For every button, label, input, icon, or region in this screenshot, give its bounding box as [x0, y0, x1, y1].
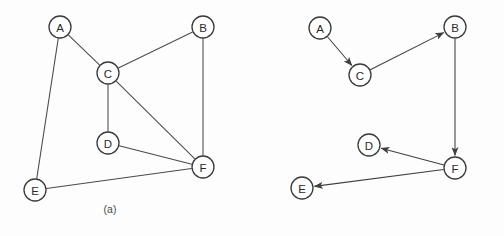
node-label-E: E	[298, 183, 306, 195]
caption-a: (a)	[90, 203, 130, 215]
graph-edge-A-C	[68, 35, 99, 65]
graph-node-C: C	[349, 64, 371, 86]
graph-edge-D-F	[119, 146, 192, 164]
node-label-D: D	[365, 140, 373, 152]
graph-node-D: D	[97, 132, 119, 154]
graph-node-D: D	[358, 134, 380, 156]
node-label-B: B	[451, 22, 459, 34]
graph-node-F: F	[444, 157, 466, 179]
graph-panel-a: ABCDEF (a)	[0, 0, 252, 236]
graph-node-E: E	[291, 177, 313, 199]
node-label-F: F	[451, 163, 458, 175]
graph-node-B: B	[444, 16, 466, 38]
graph-b-node-group: ABCDEF	[291, 16, 466, 199]
graph-node-A: A	[309, 17, 331, 39]
graph-arrow-F-E	[314, 169, 443, 186]
graph-arrow-C-B	[370, 33, 444, 70]
figure-root: ABCDEF (a) ABCDEF (b)	[0, 0, 504, 236]
node-label-B: B	[199, 22, 207, 34]
node-label-D: D	[104, 138, 112, 150]
graph-arrow-F-D	[381, 148, 444, 165]
node-label-C: C	[104, 68, 112, 80]
graph-a-edge-group	[37, 32, 203, 188]
graph-edge-A-E	[37, 38, 59, 178]
graph-edge-C-B	[118, 32, 192, 68]
graph-node-A: A	[49, 16, 71, 38]
graph-node-B: B	[192, 16, 214, 38]
node-label-E: E	[31, 185, 39, 197]
graph-a-node-group: ABCDEF	[24, 16, 214, 201]
node-label-C: C	[356, 70, 364, 82]
graph-arrow-A-C	[327, 37, 351, 66]
graph-b-canvas: ABCDEF	[252, 0, 504, 236]
graph-node-F: F	[192, 156, 214, 178]
graph-panel-b: ABCDEF (b)	[252, 0, 504, 236]
graph-node-E: E	[24, 179, 46, 201]
graph-b-edge-group	[314, 33, 455, 187]
node-label-A: A	[56, 22, 64, 34]
graph-node-C: C	[97, 62, 119, 84]
graph-edge-C-F	[116, 81, 195, 159]
node-label-A: A	[316, 23, 324, 35]
node-label-F: F	[199, 162, 206, 174]
graph-a-canvas: ABCDEF	[0, 0, 252, 236]
graph-edge-E-F	[46, 169, 191, 189]
